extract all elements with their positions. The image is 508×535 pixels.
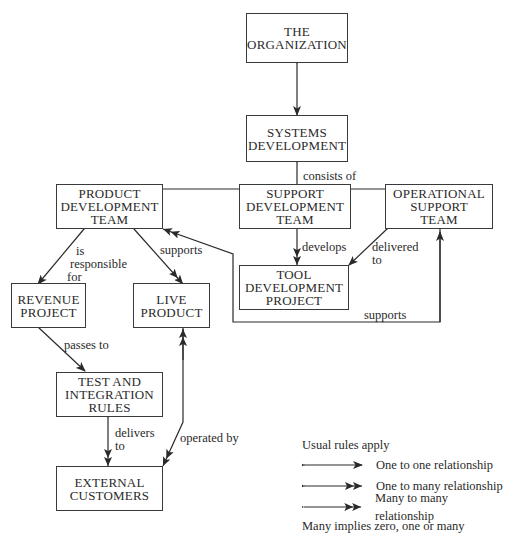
edge-label-operated-by: operated by — [180, 432, 239, 445]
edge-label-supports-live: supports — [160, 244, 202, 257]
edge-label-delivers-to: delivers to — [115, 427, 155, 453]
node-support-development-team: SUPPORT DEVELOPMENT TEAM — [239, 184, 351, 229]
node-operational-support-team: OPERATIONAL SUPPORT TEAM — [385, 184, 493, 229]
node-organization: THE ORGANIZATION — [246, 13, 348, 63]
node-live-product: LIVE PRODUCT — [133, 283, 210, 328]
one-to-one-arrow-icon — [302, 460, 364, 470]
node-tool-development-project: TOOL DEVELOPMENT PROJECT — [239, 265, 349, 310]
node-systems-development: SYSTEMS DEVELOPMENT — [246, 115, 348, 162]
edge-label-passes-to: passes to — [64, 339, 109, 352]
legend-many-to-many: Many to many relationship — [302, 496, 508, 517]
many-to-many-arrow-icon — [302, 502, 363, 512]
edge-label-delivered-to: delivered to — [372, 241, 419, 267]
one-to-many-arrow-icon — [302, 481, 364, 491]
edge-label-is-responsible-for: is responsible for — [67, 245, 127, 284]
legend-one-to-one: One to one relationship — [302, 454, 508, 475]
node-revenue-project: REVENUE PROJECT — [11, 283, 86, 328]
legend-title: Usual rules apply — [302, 436, 508, 454]
edge-live-ext — [163, 327, 183, 466]
edge-label-develops: develops — [302, 241, 346, 254]
node-external-customers: EXTERNAL CUSTOMERS — [56, 466, 163, 511]
node-product-development-team: PRODUCT DEVELOPMENT TEAM — [56, 184, 163, 229]
legend: Usual rules apply One to one relationshi… — [302, 436, 508, 535]
node-test-and-integration-rules: TEST AND INTEGRATION RULES — [56, 372, 163, 417]
edge-label-supports-ops: supports — [364, 309, 406, 322]
edge-label-consists-of: consists of — [303, 170, 356, 183]
